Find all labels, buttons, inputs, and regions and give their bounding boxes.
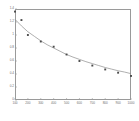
data-point-marker [78, 60, 80, 62]
x-tick-label: 1000 [123, 102, 139, 105]
data-point-marker [91, 65, 93, 67]
data-point-marker [117, 72, 119, 74]
y-axis-tick-marks [15, 9, 17, 100]
data-point-marker [104, 69, 106, 71]
y-tick-label: 0.4 [1, 72, 14, 75]
data-point-marker [130, 75, 132, 77]
data-point-marker [14, 11, 16, 13]
y-tick-label: 0.6 [1, 59, 14, 62]
x-axis-tick-marks [15, 98, 131, 100]
data-point-marker [53, 46, 55, 48]
data-point-marker [40, 41, 42, 43]
y-tick-label: 1.2 [1, 20, 14, 23]
data-point-marker [20, 19, 22, 21]
y-tick-label: 0.2 [1, 85, 14, 88]
y-tick-label: 1 [1, 33, 14, 36]
y-tick-label: 0.8 [1, 46, 14, 49]
chart-container: 00.20.40.60.811.21.4 1002003004005006007… [0, 0, 139, 121]
data-point-marker [27, 34, 29, 36]
fitted-curve-line [15, 19, 131, 73]
y-tick-label: 1.4 [1, 7, 14, 10]
data-point-markers [14, 11, 132, 77]
data-point-marker [66, 54, 68, 56]
x-axis-tick-labels: 1002003004005006007008009001000 [0, 102, 139, 112]
